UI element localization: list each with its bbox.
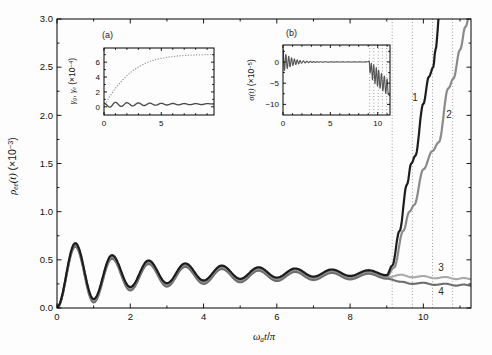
curve-3 xyxy=(57,246,471,309)
main-y-axis-label: ρee(t) (×10−3) xyxy=(6,137,20,195)
inset-b-y-axis-label: σ(t) (×10−5) xyxy=(246,59,256,100)
curve-1 xyxy=(57,9,440,307)
inset-b-tick-label: 0 xyxy=(281,119,286,128)
main-tick-label: 2 xyxy=(128,311,133,322)
inset-b-tick-label: 5 xyxy=(328,119,333,128)
inset-a-y-axis-label: γg, γe (×10−4) xyxy=(67,58,77,104)
main-x-axis-label: ωat/π xyxy=(253,330,275,344)
main-tick-label: 2.5 xyxy=(40,61,53,72)
main-tick-label: 0 xyxy=(54,311,59,322)
inset-a-title: (a) xyxy=(102,30,113,40)
main-tick-label: 2.0 xyxy=(40,110,53,121)
inset-b-tick-label: 10 xyxy=(373,119,382,128)
inset-a-tick-label: 5 xyxy=(159,119,164,128)
inset-b-tick-label: −10 xyxy=(265,100,279,109)
main-tick-label: 4 xyxy=(201,311,206,322)
inset-b-plot: 05100−5−10 xyxy=(265,45,390,128)
main-tick-label: 0.0 xyxy=(40,302,53,313)
main-tick-label: 10 xyxy=(418,311,429,322)
curve-3-label: 3 xyxy=(438,262,444,273)
main-tick-label: 8 xyxy=(347,311,352,322)
figure: 02468100.00.51.01.52.02.53.005024605100−… xyxy=(0,0,492,355)
gamma-e-dotted xyxy=(104,55,214,107)
inset-b-tick-label: −5 xyxy=(270,79,280,88)
curve-2 xyxy=(57,7,471,307)
curve-4-label: 4 xyxy=(438,286,444,297)
curve-1-label: 1 xyxy=(412,92,418,103)
inset-b-frame xyxy=(283,45,390,115)
inset-a-tick-label: 2 xyxy=(96,88,101,97)
inset-a-tick-label: 0 xyxy=(102,119,107,128)
main-tick-label: 0.5 xyxy=(40,254,53,265)
inset-a-tick-label: 6 xyxy=(96,58,101,67)
inset-b-title: (b) xyxy=(286,28,297,38)
curve-2-label: 2 xyxy=(446,109,452,120)
sigma-curve xyxy=(283,49,390,95)
gamma-g-solid xyxy=(104,102,214,107)
inset-b-tick-label: 0 xyxy=(275,58,280,67)
inset-a-tick-label: 4 xyxy=(96,73,101,82)
main-tick-label: 1.5 xyxy=(40,158,53,169)
inset-a-plot: 050246 xyxy=(96,48,214,128)
chart-canvas: 02468100.00.51.01.52.02.53.005024605100−… xyxy=(0,0,492,355)
main-tick-label: 6 xyxy=(274,311,279,322)
inset-a-tick-label: 0 xyxy=(96,103,101,112)
main-tick-label: 1.0 xyxy=(40,206,53,217)
main-tick-label: 3.0 xyxy=(40,13,53,24)
